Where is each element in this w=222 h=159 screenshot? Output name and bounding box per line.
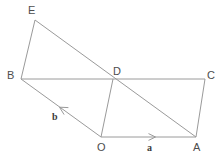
vertex-label-E: E <box>28 5 35 16</box>
segment-A-C <box>196 79 205 137</box>
segment-group <box>21 20 205 137</box>
segment-E-B <box>21 20 35 79</box>
arrowhead-group <box>60 107 156 140</box>
vector-label-a: a <box>147 143 152 153</box>
diagram-canvas <box>0 0 222 159</box>
vertex-label-A: A <box>193 142 200 153</box>
vertex-label-O: O <box>97 142 106 153</box>
vector-label-b: b <box>52 112 58 122</box>
vertex-label-D: D <box>113 66 121 77</box>
segment-B-O <box>21 79 101 137</box>
vertex-label-B: B <box>7 70 14 81</box>
vertex-label-C: C <box>207 70 215 81</box>
geometry-diagram: E B D C O A a b <box>0 0 222 159</box>
segment-D-O <box>101 79 113 137</box>
